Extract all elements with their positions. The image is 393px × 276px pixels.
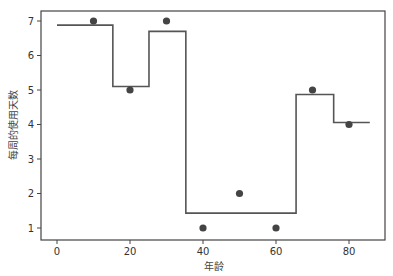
data-point <box>90 17 97 24</box>
x-axis-label: 年龄 <box>204 260 224 272</box>
x-tick-label: 20 <box>124 246 137 257</box>
x-tick-label: 80 <box>343 246 356 257</box>
x-tick-label: 0 <box>54 246 60 257</box>
chart: 0204060801234567 年龄 每周的使用天数 <box>0 0 393 276</box>
data-point <box>236 190 243 197</box>
data-point <box>309 86 316 93</box>
data-point <box>272 224 279 231</box>
y-tick-label: 6 <box>28 50 34 61</box>
y-tick-label: 3 <box>28 154 34 165</box>
x-tick-label: 40 <box>197 246 210 257</box>
y-tick-label: 1 <box>28 223 34 234</box>
data-point <box>345 121 352 128</box>
data-point <box>199 224 206 231</box>
data-point <box>163 17 170 24</box>
x-tick-label: 60 <box>270 246 283 257</box>
y-tick-label: 2 <box>28 188 34 199</box>
y-tick-label: 5 <box>28 85 34 96</box>
plot-frame <box>41 11 385 240</box>
data-point <box>126 86 133 93</box>
y-axis-label: 每周的使用天数 <box>7 90 19 160</box>
step-line <box>57 25 370 213</box>
y-tick-label: 7 <box>28 16 34 27</box>
plot-area <box>57 17 370 231</box>
axes: 0204060801234567 <box>28 11 385 257</box>
y-tick-label: 4 <box>28 119 34 130</box>
